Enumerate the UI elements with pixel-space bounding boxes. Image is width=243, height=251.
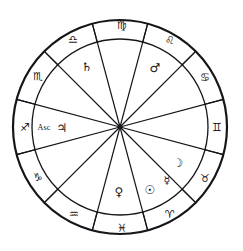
zodiac-ring-divider	[92, 24, 97, 42]
zodiac-ring-divider	[182, 189, 195, 202]
zodiac-ring-divider	[205, 150, 223, 155]
zodiac-ring-divider	[182, 51, 195, 64]
zodiac-ring-divider	[44, 189, 57, 202]
zodiac-ring-divider	[17, 150, 35, 155]
zodiac-ring-divider	[205, 99, 223, 104]
zodiac-ring-divider	[92, 212, 97, 230]
zodiac-ring-divider	[143, 212, 148, 230]
wheel-graphic	[0, 0, 243, 251]
zodiac-ring-divider	[17, 99, 35, 104]
chart-center-point	[118, 125, 123, 130]
astrology-chart-wheel: ♍♎♏♐♑♒♓♈♉♊♋♌ ♄♂☽☿☉♀♃ Asc	[0, 0, 243, 251]
zodiac-ring-divider	[44, 51, 57, 64]
zodiac-ring-divider	[143, 24, 148, 42]
